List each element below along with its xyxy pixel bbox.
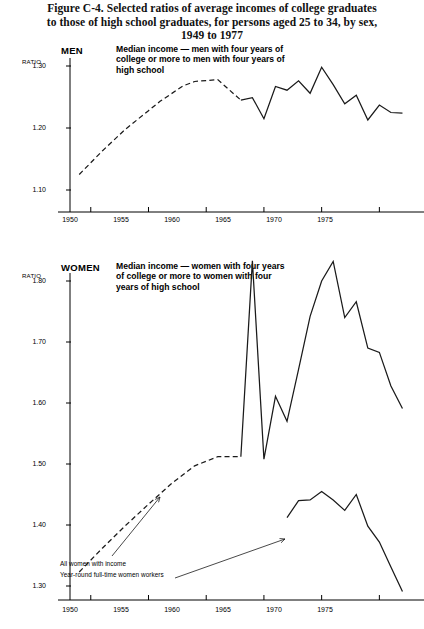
leader-arrow-all-women-with-income [112,497,160,556]
series-men-0-dashed [79,80,241,175]
leader-arrow-year-round-full-time-shaft [175,539,285,578]
figure-c4: Figure C-4. Selected ratios of average i… [0,0,424,629]
series-women-1-solid [287,491,402,591]
series-women-0-solid [241,261,403,459]
leader-arrow-all-women-with-income-shaft [112,497,160,556]
series-women-0-dashed [79,457,241,572]
series-men-0-solid [241,67,403,120]
panel-axes-men [58,58,424,212]
leader-arrow-year-round-full-time [175,539,285,578]
chart-canvas [0,0,424,629]
panel-axes-women [58,273,424,600]
